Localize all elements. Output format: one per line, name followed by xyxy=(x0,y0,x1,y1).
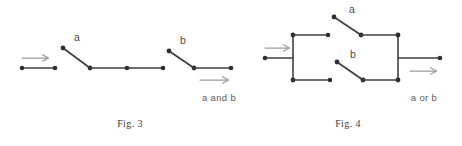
fig4-lower-left-node xyxy=(328,78,333,83)
fig3-switch-a-contact-node xyxy=(61,46,66,51)
fig4-switch-a[interactable] xyxy=(332,15,364,38)
figure-3-group: a b a and b Fig. 3 xyxy=(20,31,236,129)
figure-board: a b a and b Fig. 3 xyxy=(0,0,462,146)
fig3-switch-b[interactable] xyxy=(167,49,197,71)
fig3-terminal-node-out xyxy=(229,66,234,71)
fig4-switch-b[interactable] xyxy=(335,60,366,83)
fig3-switch-b-contact-node xyxy=(167,49,172,54)
circuit-diagrams-svg: a b a and b Fig. 3 xyxy=(0,0,462,146)
fig3-node-left-of-switch-a xyxy=(53,66,58,71)
fig3-switch-a-label: a xyxy=(74,31,80,43)
fig4-switch-a-label: a xyxy=(349,3,355,15)
fig4-right-bus-bottom-node xyxy=(396,78,401,83)
fig3-output-flow-arrow-icon xyxy=(200,77,229,83)
fig3-middle-node xyxy=(125,66,130,71)
fig4-upper-left-node xyxy=(326,33,331,38)
fig4-expression-label: a or b xyxy=(411,92,437,103)
fig3-caption: Fig. 3 xyxy=(117,118,143,129)
fig4-switch-b-lever[interactable] xyxy=(337,62,363,80)
fig3-switch-a[interactable] xyxy=(61,46,93,71)
fig3-node-left-of-switch-b xyxy=(161,66,166,71)
fig3-switch-a-lever[interactable] xyxy=(63,48,90,68)
fig4-switch-b-label: b xyxy=(350,48,356,60)
fig3-input-flow-arrow-icon xyxy=(22,55,49,61)
fig4-right-bus-top-node xyxy=(396,33,401,38)
fig4-caption: Fig. 4 xyxy=(335,118,361,129)
fig3-switch-b-label: b xyxy=(180,34,186,46)
figure-4-group: a b xyxy=(263,3,443,129)
fig3-expression-label: a and b xyxy=(202,92,236,103)
fig4-terminal-node-in xyxy=(263,56,268,61)
fig4-switch-a-contact-node xyxy=(332,15,337,20)
fig3-terminal-node-in xyxy=(20,66,25,71)
fig4-output-flow-arrow-icon xyxy=(410,68,437,74)
fig4-switch-a-lever[interactable] xyxy=(334,17,361,35)
fig4-switch-b-contact-node xyxy=(335,60,340,65)
fig3-switch-b-lever[interactable] xyxy=(169,51,194,68)
fig4-input-flow-arrow-icon xyxy=(265,45,290,51)
fig4-terminal-node-out xyxy=(438,56,443,61)
